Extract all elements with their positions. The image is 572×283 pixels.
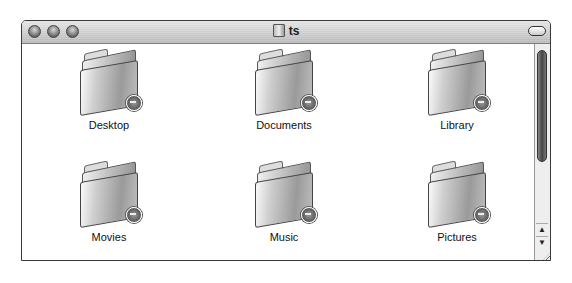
locked-badge-icon xyxy=(301,207,317,223)
folder-icon xyxy=(76,161,142,225)
folder-item-library[interactable]: Library xyxy=(402,49,512,131)
resize-grip-icon[interactable] xyxy=(540,250,550,260)
scroll-down-arrow-icon[interactable]: ▼ xyxy=(536,236,548,249)
item-label: Desktop xyxy=(54,119,164,131)
folder-item-documents[interactable]: Documents xyxy=(229,49,339,131)
window-title: ts xyxy=(22,24,550,38)
icon-view: Desktop Documents Library Movies Music P… xyxy=(22,44,535,260)
folder-icon xyxy=(424,49,490,113)
folder-item-movies[interactable]: Movies xyxy=(54,161,164,243)
scroll-up-arrow-icon[interactable]: ▲ xyxy=(536,223,548,236)
locked-badge-icon xyxy=(126,207,142,223)
folder-item-music[interactable]: Music xyxy=(229,161,339,243)
folder-icon xyxy=(76,49,142,113)
vertical-scrollbar[interactable]: ▲ ▼ xyxy=(534,44,550,260)
item-label: Documents xyxy=(229,119,339,131)
finder-window: ts Desktop Documents Library Movies Musi… xyxy=(21,20,551,261)
item-label: Pictures xyxy=(402,231,512,243)
folder-icon xyxy=(424,161,490,225)
item-label: Music xyxy=(229,231,339,243)
folder-icon xyxy=(273,24,285,37)
locked-badge-icon xyxy=(126,95,142,111)
folder-icon xyxy=(251,49,317,113)
locked-badge-icon xyxy=(474,95,490,111)
item-label: Library xyxy=(402,119,512,131)
item-label: Movies xyxy=(54,231,164,243)
folder-item-desktop[interactable]: Desktop xyxy=(54,49,164,131)
locked-badge-icon xyxy=(474,207,490,223)
window-title-text: ts xyxy=(289,24,300,38)
scrollbar-thumb[interactable] xyxy=(537,50,547,162)
toolbar-toggle-button[interactable] xyxy=(528,26,546,36)
folder-icon xyxy=(251,161,317,225)
locked-badge-icon xyxy=(301,95,317,111)
folder-item-pictures[interactable]: Pictures xyxy=(402,161,512,243)
title-bar[interactable]: ts xyxy=(22,21,550,44)
